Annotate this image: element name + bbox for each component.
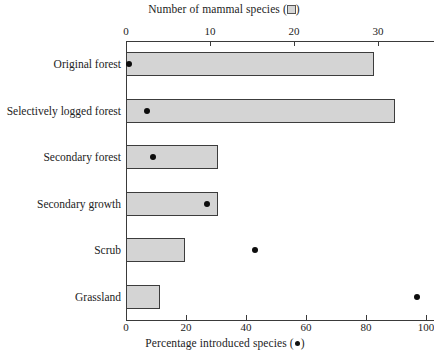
left-axis-line xyxy=(126,41,127,321)
top-axis-line xyxy=(126,41,434,42)
bottom-axis-title-label: Percentage introduced species ( xyxy=(145,337,293,349)
category-label: Scrub xyxy=(0,241,121,259)
bar xyxy=(126,285,160,309)
data-point-dot xyxy=(414,294,420,300)
top-axis-tick-label: 0 xyxy=(123,25,129,37)
category-label: Secondary forest xyxy=(0,148,121,166)
top-axis-tick xyxy=(126,41,127,46)
bottom-axis-tick xyxy=(246,315,247,320)
bottom-axis-title: Percentage introduced species () xyxy=(0,337,434,349)
data-point-dot xyxy=(204,201,210,207)
bottom-axis-tick xyxy=(186,315,187,320)
bottom-axis-line xyxy=(126,320,434,321)
top-axis-title: Number of mammal species () xyxy=(0,3,434,15)
category-label: Secondary growth xyxy=(0,195,121,213)
category-label: Selectively logged forest xyxy=(0,102,121,120)
top-axis-tick xyxy=(294,41,295,46)
category-label: Grassland xyxy=(0,288,121,306)
top-axis-title-tail: ) xyxy=(296,3,300,15)
top-axis-tick xyxy=(378,41,379,46)
data-point-dot xyxy=(150,154,156,160)
bottom-axis-tick-label: 100 xyxy=(418,321,434,333)
bar xyxy=(126,145,218,169)
bottom-axis-tick-label: 80 xyxy=(361,321,372,333)
bottom-axis-tick xyxy=(366,315,367,320)
bottom-axis-tick xyxy=(426,315,427,320)
data-point-dot xyxy=(144,108,150,114)
top-axis-tick-label: 10 xyxy=(205,25,216,37)
bottom-axis-tick-label: 0 xyxy=(123,321,129,333)
bottom-axis-tick-label: 20 xyxy=(181,321,192,333)
bottom-axis-tick-label: 60 xyxy=(301,321,312,333)
data-point-dot xyxy=(126,61,132,67)
bar xyxy=(126,238,185,262)
open-square-legend-icon xyxy=(287,5,296,14)
bottom-axis-tick-label: 40 xyxy=(241,321,252,333)
bar xyxy=(126,99,395,123)
top-axis-tick xyxy=(210,41,211,46)
data-point-dot xyxy=(252,247,258,253)
bottom-axis-tick xyxy=(306,315,307,320)
top-axis-tick-label: 30 xyxy=(373,25,384,37)
top-axis-tick-label: 20 xyxy=(289,25,300,37)
top-axis-title-label: Number of mammal species ( xyxy=(148,3,287,15)
filled-circle-legend-icon xyxy=(295,341,300,346)
mammal-species-chart: Number of mammal species () Percentage i… xyxy=(0,0,434,357)
category-label: Original forest xyxy=(0,55,121,73)
bar xyxy=(126,52,374,76)
bottom-axis-tick xyxy=(126,315,127,320)
bottom-axis-title-tail: ) xyxy=(301,337,305,349)
